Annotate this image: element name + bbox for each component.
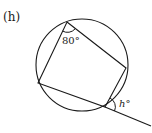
angle-label-h: h° [119,99,130,109]
cyclic-quadrilateral [38,22,126,107]
circumcircle [36,19,128,111]
circle-diagram [0,0,152,133]
angle-label-80: 80° [62,36,80,46]
angle-arc-80 [63,29,76,32]
part-label: (h) [3,11,20,23]
extended-side-line [105,107,151,126]
